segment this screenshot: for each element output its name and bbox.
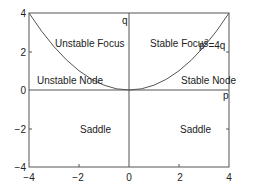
x-tick-label: 0 (126, 172, 132, 183)
y-tick-label: −2 (15, 124, 27, 135)
x-tick-label: −2 (72, 172, 84, 183)
y-tick-label: 2 (20, 47, 26, 58)
phase-diagram: −4 −2 0 2 4 4 2 0 −2 −4 q p Unstable Foc… (0, 0, 253, 194)
region-unstable-focus: Unstable Focus (55, 38, 124, 49)
y-tick-label: −4 (15, 162, 27, 173)
p-axis-label: p (223, 90, 229, 101)
curve-label-rest: =4q (208, 40, 225, 51)
x-tick-label: 2 (177, 172, 183, 183)
y-tick-label: 0 (20, 85, 26, 96)
region-saddle-left: Saddle (80, 124, 112, 135)
q-axis-label: q (122, 15, 128, 26)
region-saddle-right: Saddle (180, 124, 212, 135)
y-tick-label: 4 (20, 8, 26, 19)
region-unstable-node: Unstable Node (37, 75, 104, 86)
x-tick-label: −4 (23, 172, 35, 183)
x-tick-label: 4 (226, 172, 232, 183)
curve-label: p2=4q (199, 38, 225, 51)
region-stable-node: Stable Node (181, 75, 236, 86)
